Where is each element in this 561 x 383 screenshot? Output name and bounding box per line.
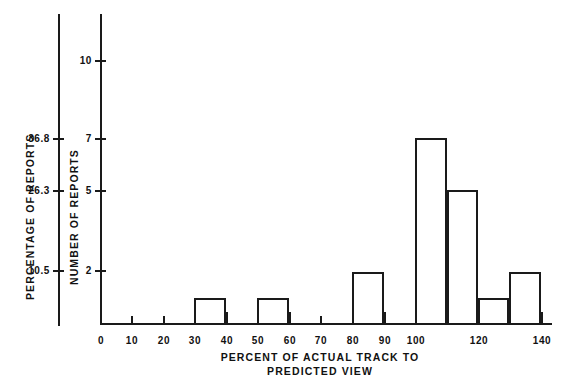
x-tick-label-70: 70 [315,336,327,346]
x-tick-label-60: 60 [284,336,296,346]
x-tick-label-20: 20 [158,336,170,346]
x-tick-40 [226,312,228,324]
x-tick-label-120: 120 [470,336,489,346]
percentage-tick-36-8 [53,138,64,140]
bar-50-60 [257,298,289,325]
x-tick-label-10: 10 [126,336,138,346]
x-axis-title: PERCENT OF ACTUAL TRACK TO PREDICTED VIE… [200,350,440,378]
x-tick-130 [509,312,511,324]
count-tick-10 [95,60,106,62]
percentage-tick-label-36-8: 36.8 [28,134,50,144]
x-axis-title-line-1: PERCENT OF ACTUAL TRACK TO [200,350,440,364]
bar-30-40 [194,298,226,325]
percentage-axis-line [58,14,60,326]
x-tick-label-100: 100 [407,336,426,346]
bar-110-120 [447,190,478,325]
x-tick-10 [131,316,133,324]
x-tick-label-80: 80 [347,336,359,346]
x-tick-30 [194,312,196,324]
count-axis-title: NUMBER OF REPORTS [68,149,80,285]
x-tick-120 [478,312,480,324]
bar-80-90 [352,272,384,325]
count-tick-label-5: 5 [86,186,92,196]
x-tick-50 [257,312,259,324]
x-tick-80 [352,312,354,324]
percentage-tick-label-26-3: 26.3 [28,186,50,196]
x-tick-0 [100,312,102,323]
x-tick-90 [384,312,386,324]
x-tick-label-0: 0 [98,336,104,346]
histogram-figure: PERCENTAGE OF REPORTS 36.8 26.3 10.5 NUM… [0,0,561,383]
count-tick-label-2: 2 [86,266,92,276]
percentage-tick-26-3 [53,190,64,192]
bar-100-110 [415,138,447,325]
x-tick-label-50: 50 [252,336,264,346]
percentage-tick-label-10-5: 10.5 [28,266,50,276]
x-tick-70 [320,316,322,324]
count-tick-2 [95,270,106,272]
count-tick-7 [95,138,106,140]
count-tick-5 [95,190,106,192]
x-tick-label-30: 30 [189,336,201,346]
x-tick-label-140: 140 [533,336,552,346]
x-axis-title-line-2: PREDICTED VIEW [200,364,440,378]
x-tick-label-40: 40 [221,336,233,346]
count-tick-label-7: 7 [86,134,92,144]
x-tick-140 [541,312,543,324]
x-tick-100 [415,312,417,324]
x-tick-label-90: 90 [379,336,391,346]
x-tick-60 [289,312,291,324]
bar-120-130 [478,298,509,325]
x-tick-110 [447,312,449,324]
percentage-tick-10-5 [53,270,64,272]
bar-130-140 [509,272,541,325]
x-tick-20 [163,316,165,324]
count-tick-label-10: 10 [80,56,92,66]
